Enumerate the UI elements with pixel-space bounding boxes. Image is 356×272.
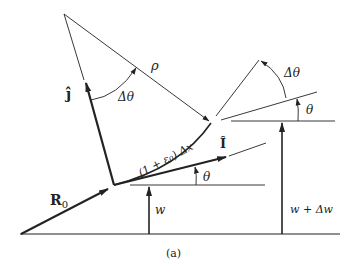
theta-label-right: θ — [306, 103, 314, 117]
w-plus-dw-label: w + Δw — [290, 203, 334, 216]
j-extension-line — [64, 14, 84, 80]
theta-arc-right — [297, 99, 298, 121]
w-label: w — [155, 203, 166, 217]
r0-vector — [21, 189, 108, 234]
deformation-diagram: ĵ ρ Δθ Î (1 + ε₀) Δx θ Δθ θ R0 w w + Δw … — [0, 0, 356, 272]
tilted-line-right — [221, 92, 317, 120]
i-hat-label: Î — [220, 136, 226, 151]
r0-label: R0 — [50, 192, 68, 210]
arc-length-label: (1 + ε₀) Δx — [136, 140, 196, 180]
j-hat-label: ĵ — [64, 86, 71, 102]
rho-label: ρ — [150, 58, 159, 73]
figure-caption: (a) — [166, 247, 181, 260]
i-extension-line — [229, 143, 266, 156]
normal-line-right — [216, 60, 259, 116]
delta-theta-arc-right — [261, 61, 286, 98]
theta-label-left: θ — [203, 170, 211, 184]
theta-arc-left — [195, 167, 196, 185]
delta-theta-label-right: Δθ — [283, 66, 301, 80]
delta-theta-label-left: Δθ — [117, 90, 135, 104]
rho-line — [64, 14, 209, 121]
